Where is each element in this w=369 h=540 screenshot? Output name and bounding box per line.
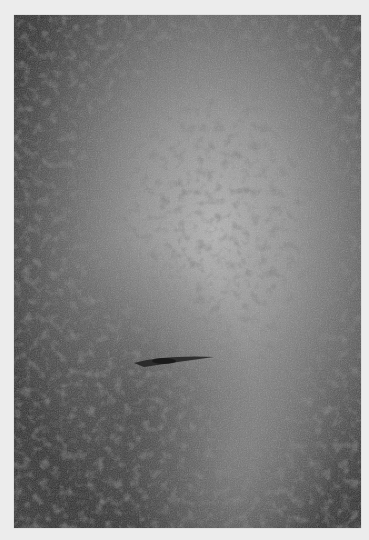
skin-photo (14, 15, 361, 528)
skin-texture-image (14, 15, 361, 528)
